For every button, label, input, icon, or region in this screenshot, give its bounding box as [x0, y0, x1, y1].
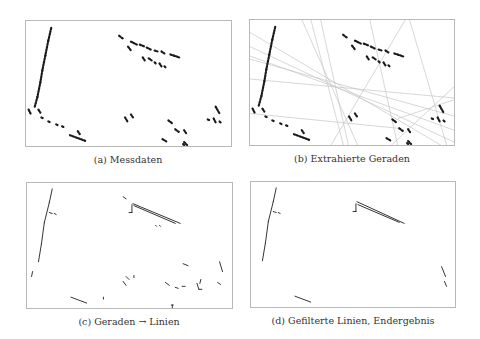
caption-b: (b) Extrahierte Geraden — [294, 153, 410, 164]
panel-c-lines-to-segments — [26, 182, 233, 309]
panel-d-plot — [251, 182, 455, 307]
panel-a-measurement-data — [25, 20, 232, 147]
panel-a-plot — [26, 21, 231, 146]
panel-d-filtered-result — [250, 181, 456, 308]
panel-b-extracted-lines — [249, 19, 455, 146]
panel-c-plot — [27, 183, 232, 308]
caption-a: (a) Messdaten — [94, 154, 163, 165]
caption-c: (c) Geraden → Linien — [78, 316, 179, 327]
panel-b-plot — [250, 20, 454, 145]
caption-d: (d) Gefilterte Linien, Endergebnis — [272, 315, 435, 326]
